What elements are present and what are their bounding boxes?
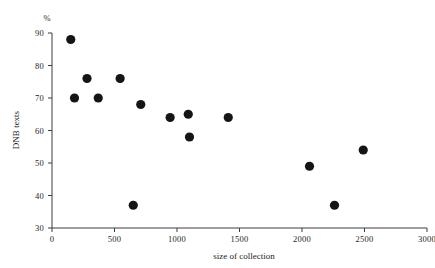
y-tick-label: 90 bbox=[35, 28, 44, 38]
data-point bbox=[185, 132, 194, 141]
y-axis-unit-label: % bbox=[43, 13, 50, 23]
x-tick-label: 2500 bbox=[356, 234, 374, 244]
x-axis-title: size of collection bbox=[213, 251, 275, 261]
data-point bbox=[94, 93, 103, 102]
x-tick-label: 0 bbox=[50, 234, 54, 244]
x-axis-ticks: 050010001500200025003000 bbox=[50, 228, 435, 244]
x-tick-label: 2000 bbox=[293, 234, 311, 244]
data-point bbox=[129, 201, 138, 210]
y-tick-label: 40 bbox=[35, 191, 44, 201]
y-tick-label: 30 bbox=[35, 223, 44, 233]
scatter-chart: 30405060708090 050010001500200025003000 … bbox=[0, 0, 435, 268]
y-tick-label: 50 bbox=[35, 158, 44, 168]
chart-canvas: 30405060708090 050010001500200025003000 … bbox=[0, 0, 435, 268]
x-tick-label: 1000 bbox=[168, 234, 186, 244]
y-tick-label: 80 bbox=[35, 61, 44, 71]
data-point bbox=[136, 100, 145, 109]
data-point bbox=[359, 145, 368, 154]
data-point bbox=[305, 162, 314, 171]
y-axis-ticks: 30405060708090 bbox=[35, 28, 52, 233]
data-point bbox=[166, 113, 175, 122]
data-point bbox=[70, 93, 79, 102]
data-point bbox=[116, 74, 125, 83]
x-tick-label: 3000 bbox=[418, 234, 435, 244]
y-tick-label: 60 bbox=[35, 126, 44, 136]
y-tick-label: 70 bbox=[35, 93, 44, 103]
y-axis-title: DNB texts bbox=[11, 110, 21, 149]
x-axis-group: 050010001500200025003000 bbox=[50, 228, 435, 244]
x-tick-label: 1500 bbox=[231, 234, 249, 244]
data-point bbox=[82, 74, 91, 83]
data-point bbox=[184, 110, 193, 119]
data-point bbox=[224, 113, 233, 122]
data-point bbox=[330, 201, 339, 210]
data-point bbox=[66, 35, 75, 44]
y-axis-group: 30405060708090 bbox=[35, 28, 52, 233]
data-points-group bbox=[66, 35, 368, 210]
x-tick-label: 500 bbox=[108, 234, 121, 244]
